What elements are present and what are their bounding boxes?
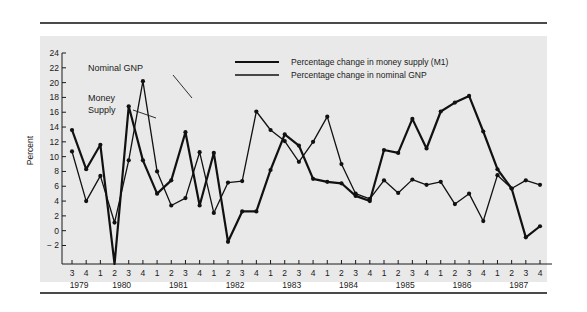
- data-point: [212, 211, 216, 215]
- x-tick-label: 4: [481, 268, 486, 278]
- x-tick-label: 1: [211, 268, 216, 278]
- x-tick-label: 3: [353, 268, 358, 278]
- data-point: [481, 129, 485, 133]
- data-point: [453, 101, 457, 105]
- data-point: [410, 178, 414, 182]
- data-point: [339, 162, 343, 166]
- annotation-nominal-gnp: Nominal GNP: [88, 63, 143, 73]
- y-tick-label: 2: [54, 211, 59, 221]
- data-point: [283, 132, 287, 136]
- x-tick-label: 1: [325, 268, 330, 278]
- data-point: [254, 109, 258, 113]
- data-point: [453, 202, 457, 206]
- figure: − 2024681012141618202224Percent341234123…: [0, 0, 587, 312]
- y-axis-title: Percent: [25, 135, 35, 165]
- data-point: [141, 79, 145, 83]
- y-tick-label: 18: [50, 92, 60, 102]
- data-point: [98, 174, 102, 178]
- data-point: [424, 183, 428, 187]
- x-tick-label: 3: [297, 268, 302, 278]
- y-tick-label: 20: [50, 78, 60, 88]
- line-chart: − 2024681012141618202224Percent341234123…: [0, 0, 587, 312]
- data-point: [410, 117, 414, 121]
- data-point: [325, 115, 329, 119]
- y-tick-label: 0: [54, 226, 59, 236]
- x-tick-label: 4: [197, 268, 202, 278]
- y-tick-label: − 2: [47, 240, 59, 250]
- data-point: [538, 183, 542, 187]
- data-point: [382, 178, 386, 182]
- data-point: [354, 192, 358, 196]
- annotation-money-supply-line2: Supply: [88, 105, 116, 115]
- data-point: [297, 160, 301, 164]
- data-point: [127, 158, 131, 162]
- y-tick-label: 14: [50, 122, 60, 132]
- data-point: [155, 169, 159, 173]
- series-line: [72, 96, 540, 264]
- y-tick-label: 8: [54, 166, 59, 176]
- legend-label: Percentage change in nominal GNP: [291, 70, 427, 80]
- x-year-label: 1986: [453, 280, 472, 290]
- data-point: [424, 146, 428, 150]
- data-point: [510, 186, 514, 190]
- data-point: [339, 181, 343, 185]
- data-point: [155, 192, 159, 196]
- data-point: [538, 224, 542, 228]
- y-tick-label: 24: [50, 48, 60, 58]
- x-tick-label: 4: [311, 268, 316, 278]
- x-tick-label: 4: [84, 268, 89, 278]
- data-point: [169, 203, 173, 207]
- x-tick-label: 1: [382, 268, 387, 278]
- data-point: [382, 148, 386, 152]
- data-point: [183, 130, 187, 134]
- data-point: [183, 196, 187, 200]
- x-tick-label: 4: [254, 268, 259, 278]
- data-point: [495, 167, 499, 171]
- data-point: [70, 128, 74, 132]
- x-tick-label: 3: [126, 268, 131, 278]
- data-point: [524, 235, 528, 239]
- legend-label: Percentage change in money supply (M1): [291, 57, 449, 67]
- x-tick-label: 3: [240, 268, 245, 278]
- data-point: [240, 209, 244, 213]
- data-point: [311, 177, 315, 181]
- data-point: [325, 180, 329, 184]
- data-point: [141, 158, 145, 162]
- data-point: [396, 151, 400, 155]
- x-year-label: 1984: [339, 280, 358, 290]
- data-point: [268, 128, 272, 132]
- y-tick-label: 22: [50, 63, 60, 73]
- y-tick-label: 10: [50, 152, 60, 162]
- data-point: [467, 94, 471, 98]
- x-tick-label: 3: [410, 268, 415, 278]
- x-tick-label: 2: [509, 268, 514, 278]
- data-point: [84, 167, 88, 171]
- data-point: [226, 180, 230, 184]
- data-point: [439, 180, 443, 184]
- x-tick-label: 3: [523, 268, 528, 278]
- data-point: [198, 150, 202, 154]
- annotation-money-supply-line1: Money: [88, 93, 116, 103]
- x-tick-label: 2: [339, 268, 344, 278]
- x-tick-label: 1: [438, 268, 443, 278]
- x-tick-label: 2: [282, 268, 287, 278]
- x-year-label: 1987: [509, 280, 528, 290]
- data-point: [283, 139, 287, 143]
- x-tick-label: 1: [495, 268, 500, 278]
- series-line: [72, 81, 540, 222]
- data-point: [98, 143, 102, 147]
- data-point: [368, 197, 372, 201]
- x-tick-label: 2: [226, 268, 231, 278]
- data-point: [112, 220, 116, 224]
- x-tick-label: 4: [424, 268, 429, 278]
- data-point: [268, 168, 272, 172]
- y-tick-label: 4: [54, 196, 59, 206]
- x-tick-label: 1: [98, 268, 103, 278]
- data-point: [481, 219, 485, 223]
- x-year-label: 1982: [226, 280, 245, 290]
- data-point: [297, 143, 301, 147]
- y-tick-label: 16: [50, 107, 60, 117]
- data-point: [240, 179, 244, 183]
- x-tick-label: 3: [183, 268, 188, 278]
- x-year-label: 1981: [169, 280, 188, 290]
